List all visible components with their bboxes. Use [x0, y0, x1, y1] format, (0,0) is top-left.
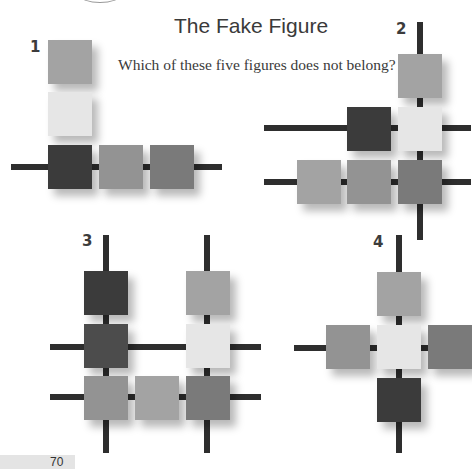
square-dark — [48, 145, 92, 189]
page-number-strip — [0, 455, 75, 469]
square-dark — [84, 271, 128, 315]
square-pale — [48, 92, 92, 136]
figure-label: 3 — [82, 232, 92, 250]
square-midlight — [99, 145, 143, 189]
square-dark — [377, 378, 421, 422]
question-text: Which of these five figures does not bel… — [118, 56, 396, 74]
figure-label: 1 — [30, 38, 40, 56]
square-midlight — [347, 160, 391, 204]
square-mid — [186, 376, 230, 420]
square-pale — [186, 324, 230, 368]
square-pale — [377, 325, 421, 369]
square-light — [377, 272, 421, 316]
square-mid — [398, 160, 442, 204]
decorative-curve — [80, 0, 120, 3]
square-light — [135, 376, 179, 420]
square-dark — [347, 107, 391, 151]
square-light — [297, 160, 341, 204]
page-number: 70 — [50, 455, 63, 469]
square-midlight — [84, 376, 128, 420]
square-mid — [150, 145, 194, 189]
square-light — [48, 40, 92, 84]
figure-label: 2 — [396, 20, 406, 38]
figure-label: 4 — [373, 233, 383, 251]
page-title: The Fake Figure — [174, 14, 328, 38]
square-darkmid — [84, 324, 128, 368]
square-light — [398, 54, 442, 98]
square-mid — [428, 325, 472, 369]
square-light — [186, 271, 230, 315]
square-midlight — [326, 325, 370, 369]
square-pale — [398, 107, 442, 151]
